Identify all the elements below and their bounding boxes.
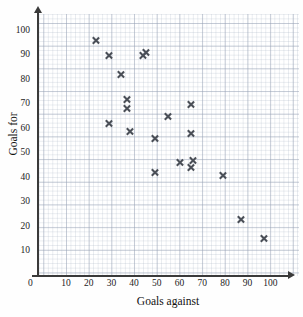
x-tick-label-70: 70 [190,278,214,288]
x-tick-label-80: 80 [213,278,237,288]
x-tick-label-40: 40 [122,278,146,288]
y-tick-label-10: 10 [0,245,30,255]
data-point-marker [150,134,159,143]
x-tick-label-20: 20 [77,278,101,288]
data-point-marker [236,215,245,224]
data-point-marker [259,234,268,243]
data-point-marker [123,95,132,104]
x-axis-arrow-icon [288,271,295,279]
data-point-marker [105,51,114,60]
x-tick-label-50: 50 [145,278,169,288]
scatter-chart-figure: 0 102030405060708090100 1020304050607080… [0,0,303,317]
data-point-marker [105,119,114,128]
data-point-marker [186,100,195,109]
data-point-marker [218,171,227,180]
data-point-marker [164,112,173,121]
x-tick-label-10: 10 [54,278,78,288]
x-tick-label-100: 100 [258,278,282,288]
x-axis-title: Goals against [37,295,299,307]
x-tick-label-60: 60 [168,278,192,288]
data-point-marker [141,48,150,57]
y-axis-line [37,12,39,277]
y-tick-label-30: 30 [0,196,30,206]
data-point-marker [91,36,100,45]
x-tick-label-90: 90 [236,278,260,288]
data-point-marker [123,104,132,113]
y-tick-label-100: 100 [0,25,30,35]
data-point-marker [150,168,159,177]
data-point-marker [186,163,195,172]
origin-tick-label: 0 [28,278,33,288]
y-axis-arrow-icon [34,6,42,13]
x-tick-label-30: 30 [99,278,123,288]
x-axis-line [32,275,290,277]
data-point-marker [186,129,195,138]
y-tick-label-90: 90 [0,49,30,59]
y-tick-label-80: 80 [0,74,30,84]
y-tick-label-20: 20 [0,221,30,231]
data-point-marker [175,158,184,167]
y-axis-title: Goals for [7,94,19,174]
data-point-marker [116,70,125,79]
data-point-marker [125,127,134,136]
